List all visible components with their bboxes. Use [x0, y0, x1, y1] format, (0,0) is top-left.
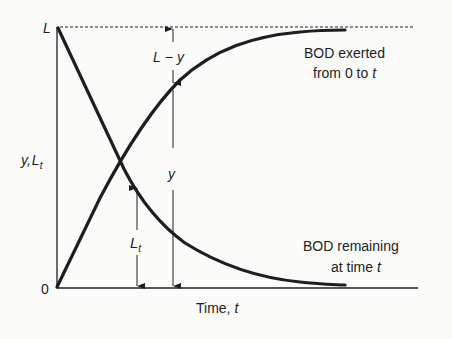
bod-exerted-label-line1: BOD exerted [304, 45, 385, 61]
bod-remaining-label-line2: at timet [331, 259, 382, 275]
ultimate-bod-label: L [43, 20, 51, 36]
l-minus-y-label: L−y [153, 49, 185, 65]
lt-remaining-label: Lt [130, 234, 142, 254]
bod-exerted-label-line2: from 0 tot [313, 65, 377, 81]
bod-diagram: L y,Lt 0 Time,t L−y y Lt BOD exerted fro… [0, 0, 452, 339]
bod-remaining-label-line1: BOD remaining [303, 238, 399, 254]
y-exerted-label: y [167, 166, 176, 182]
y-axis-label: y,Lt [20, 152, 44, 171]
bod-remaining-curve [58, 28, 345, 285]
diagram-canvas: L y,Lt 0 Time,t L−y y Lt BOD exerted fro… [0, 0, 452, 339]
bod-exerted-curve [57, 30, 345, 287]
origin-zero-label: 0 [41, 281, 49, 297]
x-axis-label: Time,t [196, 300, 239, 316]
